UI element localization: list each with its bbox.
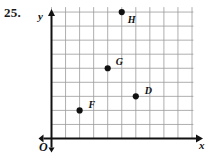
y-axis-bottom-tip	[49, 148, 55, 153]
point-label-h: H	[128, 15, 136, 25]
origin-label: O	[39, 141, 48, 153]
y-axis-label: y	[38, 11, 43, 22]
data-point-d	[133, 93, 139, 99]
point-label-g: G	[116, 57, 123, 67]
coordinate-plane-figure: 25. y x O DFGH	[0, 0, 214, 162]
y-axis-arrow	[48, 9, 55, 16]
gridlines	[52, 7, 194, 138]
data-point-f	[77, 107, 83, 113]
data-point-h	[119, 9, 125, 15]
x-axis-label: x	[199, 140, 205, 151]
data-point-g	[105, 65, 111, 71]
scatter-plot-graphic	[0, 0, 214, 162]
point-label-f: F	[89, 100, 96, 110]
point-label-d: D	[145, 86, 152, 96]
